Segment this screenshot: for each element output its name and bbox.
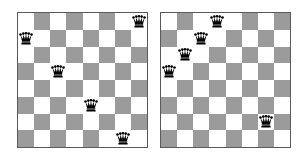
board-square (274, 114, 290, 131)
board-square (83, 63, 99, 80)
board-square (274, 80, 290, 97)
board-square (161, 114, 177, 131)
board-square (66, 97, 82, 114)
board-square (66, 130, 82, 147)
board-square (161, 80, 177, 97)
board-square (161, 130, 177, 147)
board-square (258, 130, 274, 147)
board-square (242, 97, 258, 114)
board-square (99, 47, 115, 64)
board-square (274, 30, 290, 47)
board-square (242, 63, 258, 80)
board-square (193, 114, 209, 131)
board-square (274, 97, 290, 114)
board-square (34, 80, 50, 97)
board-square (66, 114, 82, 131)
board-square (177, 47, 193, 64)
board-square (193, 80, 209, 97)
board-square (99, 30, 115, 47)
board-square (131, 130, 147, 147)
queen-icon (178, 48, 192, 61)
board-square (83, 97, 99, 114)
board-square (50, 97, 66, 114)
board-square (115, 13, 131, 30)
board-square (50, 47, 66, 64)
board-square (115, 63, 131, 80)
board-square (161, 30, 177, 47)
board-square (258, 13, 274, 30)
queen-icon (259, 115, 273, 128)
board-square (161, 13, 177, 30)
board-square (83, 80, 99, 97)
board-square (115, 80, 131, 97)
board-square (226, 47, 242, 64)
board-square (34, 30, 50, 47)
board-square (18, 114, 34, 131)
board-square (258, 80, 274, 97)
board-square (274, 13, 290, 30)
queen-icon (194, 32, 208, 45)
board-square (209, 130, 225, 147)
board-square (131, 114, 147, 131)
board-square (193, 13, 209, 30)
board-square (242, 47, 258, 64)
board-square (83, 13, 99, 30)
chessboard-right (160, 12, 291, 148)
board-square (83, 130, 99, 147)
board-square (99, 130, 115, 147)
board-square (131, 80, 147, 97)
board-square (99, 63, 115, 80)
board-square (66, 30, 82, 47)
board-square (83, 30, 99, 47)
board-square (50, 63, 66, 80)
board-square (226, 30, 242, 47)
board-square (209, 80, 225, 97)
board-square (18, 80, 34, 97)
board-square (34, 130, 50, 147)
chessboard-left (17, 12, 148, 148)
board-square (99, 114, 115, 131)
board-square (131, 63, 147, 80)
board-square (242, 13, 258, 30)
board-square (115, 30, 131, 47)
board-square (209, 97, 225, 114)
board-square (99, 80, 115, 97)
board-square (161, 97, 177, 114)
board-square (226, 114, 242, 131)
board-square (177, 80, 193, 97)
board-square (50, 30, 66, 47)
board-square (193, 97, 209, 114)
board-square (226, 63, 242, 80)
board-square (242, 114, 258, 131)
board-square (99, 97, 115, 114)
board-square (115, 114, 131, 131)
board-square (34, 13, 50, 30)
board-square (66, 63, 82, 80)
board-square (18, 97, 34, 114)
queen-icon (132, 15, 146, 28)
board-square (34, 97, 50, 114)
board-square (209, 63, 225, 80)
board-square (226, 13, 242, 30)
board-square (34, 63, 50, 80)
board-square (131, 97, 147, 114)
board-square (177, 30, 193, 47)
board-square (131, 47, 147, 64)
board-square (258, 63, 274, 80)
board-square (274, 130, 290, 147)
board-square (226, 80, 242, 97)
board-square (18, 130, 34, 147)
board-square (66, 13, 82, 30)
queen-icon (84, 99, 98, 112)
board-square (177, 114, 193, 131)
board-square (50, 80, 66, 97)
board-square (115, 97, 131, 114)
board-square (18, 47, 34, 64)
board-square (131, 13, 147, 30)
queen-icon (116, 132, 130, 145)
board-square (209, 114, 225, 131)
board-square (193, 130, 209, 147)
board-square (258, 47, 274, 64)
board-square (209, 47, 225, 64)
board-square (18, 30, 34, 47)
